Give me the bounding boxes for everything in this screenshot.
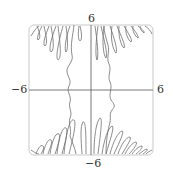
- wavy-curve-right: [108, 45, 114, 122]
- x-min-label: −6: [11, 84, 27, 95]
- wavy-curve-left: [67, 25, 74, 136]
- x-max-label: 6: [157, 84, 164, 95]
- y-min-label: −6: [85, 158, 101, 169]
- y-max-label: 6: [88, 13, 95, 24]
- contour-curves: [31, 25, 152, 154]
